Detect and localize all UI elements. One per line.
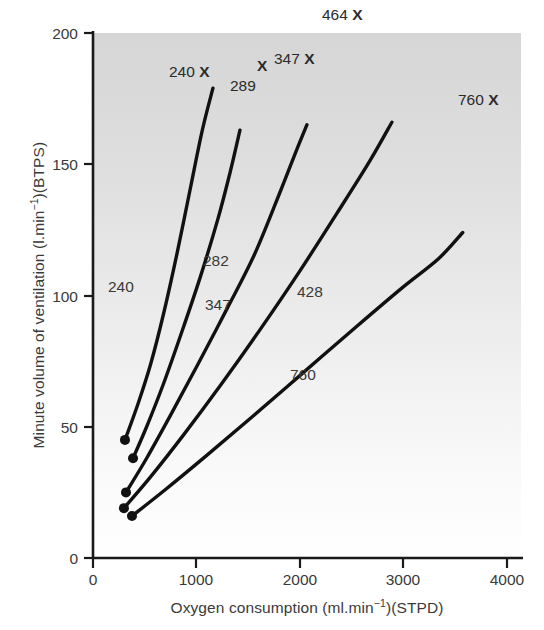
y-axis-title-main: Minute volume of ventilation (l.min [30, 211, 47, 449]
annotation-760-marker-icon: X [484, 91, 499, 108]
start-point-428 [119, 503, 129, 513]
x-axis-title-superscript: −1 [374, 597, 386, 609]
curve-label-428: 428 [297, 283, 323, 301]
x-axis-title-main: Oxygen consumption (ml.min [170, 599, 373, 616]
annotation-240-value: 240 [169, 63, 195, 80]
start-point-282 [128, 453, 138, 463]
annotation-347-value: 347 [274, 50, 300, 67]
start-point-347 [121, 487, 131, 497]
start-point-240 [120, 435, 130, 445]
x-tick-label-1000: 1000 [161, 571, 231, 589]
x-tick-label-0: 0 [73, 571, 113, 589]
x-tick-label-3000: 3000 [368, 571, 438, 589]
annotation-347: 347 X [274, 50, 315, 68]
curve-label-347: 347 [205, 296, 231, 314]
x-axis-title: Oxygen consumption (ml.min−1)(STPD) [93, 597, 521, 617]
annotation-347-marker-icon: X [300, 50, 315, 67]
annotation-464-value: 464 [322, 6, 348, 23]
x-axis-title-tail: )(STPD) [386, 599, 444, 616]
annotation-240-marker-icon: X [195, 63, 210, 80]
chart-figure: 200 150 100 50 0 0 1000 2000 3000 4000 O… [0, 0, 544, 630]
annotation-760: 760 X [458, 91, 499, 109]
curve-label-282: 282 [203, 252, 229, 270]
annotation-289-marker-icon: X [257, 57, 267, 74]
y-axis-title-tail: )(BTPS) [30, 142, 47, 199]
x-tick-label-4000: 4000 [472, 571, 542, 589]
annotation-289-value: 289 [230, 77, 256, 94]
annotation-760-value: 760 [458, 91, 484, 108]
annotation-289: 289 [230, 77, 256, 95]
annotation-240: 240 X [169, 63, 210, 81]
curve-label-760: 760 [290, 366, 316, 384]
annotation-464: 464 X [322, 6, 363, 24]
curve-label-240: 240 [108, 278, 134, 296]
y-axis-title: Minute volume of ventilation (l.min−1)(B… [28, 35, 48, 555]
y-axis-ticks [84, 33, 93, 558]
annotation-464-marker-icon: X [348, 6, 363, 23]
annotation-289-marker: X [257, 57, 267, 75]
start-point-760 [127, 511, 137, 521]
x-axis-ticks [93, 558, 507, 568]
y-axis-title-superscript: −1 [28, 198, 40, 210]
x-tick-label-2000: 2000 [265, 571, 335, 589]
